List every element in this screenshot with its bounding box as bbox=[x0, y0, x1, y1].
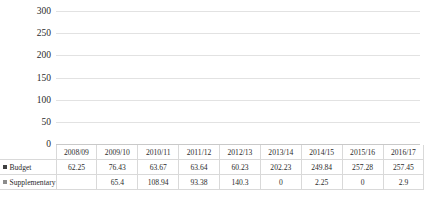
table-column-header: 2014/15 bbox=[301, 145, 342, 160]
bar-chart-with-data-table: UGX in Billions 050100150200250300 2008/… bbox=[0, 0, 424, 201]
table-cell-budget: 202.23 bbox=[260, 160, 301, 175]
table-column-header: 2013/14 bbox=[260, 145, 301, 160]
table-column-header: 2012/13 bbox=[220, 145, 261, 160]
legend-item-budget[interactable]: Budget bbox=[0, 160, 56, 175]
y-tick-label: 250 bbox=[37, 28, 51, 38]
y-tick-label: 100 bbox=[37, 95, 51, 105]
table-cell-supplementary: 65.4 bbox=[97, 175, 138, 190]
table-cell-budget: 76.43 bbox=[97, 160, 138, 175]
bar-group bbox=[107, 12, 158, 145]
table-cell-budget: 62.25 bbox=[56, 160, 97, 175]
table-cell-budget: 63.64 bbox=[179, 160, 220, 175]
table-cell-supplementary: 2.25 bbox=[301, 175, 342, 190]
table-column-header: 2009/10 bbox=[97, 145, 138, 160]
y-tick-label: 200 bbox=[37, 50, 51, 60]
table-row: Budget 62.2576.4363.6763.6460.23202.2324… bbox=[0, 160, 424, 175]
bar-group bbox=[56, 12, 107, 145]
bars-layer bbox=[56, 12, 420, 145]
table-cell-budget: 63.67 bbox=[138, 160, 179, 175]
bar-group bbox=[260, 12, 311, 145]
table-column-header: 2011/12 bbox=[179, 145, 220, 160]
table-column-header: 2008/09 bbox=[56, 145, 97, 160]
table-cell-supplementary: 0 bbox=[260, 175, 301, 190]
plot-area: 050100150200250300 bbox=[56, 12, 420, 145]
table-cell-supplementary: 140.3 bbox=[220, 175, 261, 190]
bar-group bbox=[413, 12, 424, 145]
y-tick-label: 150 bbox=[37, 73, 51, 83]
table-cell-supplementary: 2.9 bbox=[383, 175, 424, 190]
table-column-header: 2010/11 bbox=[138, 145, 179, 160]
table-column-header: 2016/17 bbox=[383, 145, 424, 160]
table-cell-supplementary: 108.94 bbox=[138, 175, 179, 190]
bar-group bbox=[158, 12, 209, 145]
table-row: Supplementary 65.4108.9493.38140.302.250… bbox=[0, 175, 424, 190]
chart-data-table: 2008/092009/102010/112011/122012/132013/… bbox=[0, 145, 424, 190]
table-cell-supplementary: 93.38 bbox=[179, 175, 220, 190]
table-cell-budget: 249.84 bbox=[301, 160, 342, 175]
bar-group bbox=[209, 12, 260, 145]
table-cell-budget: 257.45 bbox=[383, 160, 424, 175]
table-cell-budget: 60.23 bbox=[220, 160, 261, 175]
bar-group bbox=[362, 12, 413, 145]
legend-item-supplementary[interactable]: Supplementary bbox=[0, 175, 56, 190]
y-tick-label: 300 bbox=[37, 6, 51, 16]
table-cell-budget: 257.28 bbox=[342, 160, 383, 175]
table-cell-supplementary: 0 bbox=[342, 175, 383, 190]
bar-group bbox=[311, 12, 362, 145]
legend-label-supplementary: Supplementary bbox=[10, 178, 56, 187]
table-corner-cell bbox=[0, 145, 56, 160]
y-tick-label: 50 bbox=[42, 117, 52, 127]
table-header-row: 2008/092009/102010/112011/122012/132013/… bbox=[0, 145, 424, 160]
square-marker-icon bbox=[3, 180, 7, 184]
table-column-header: 2015/16 bbox=[342, 145, 383, 160]
table-cell-supplementary bbox=[56, 175, 97, 190]
square-marker-icon bbox=[3, 165, 7, 169]
legend-label-budget: Budget bbox=[10, 163, 32, 172]
